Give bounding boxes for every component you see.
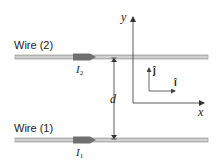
current-1-subscript: 1 [80,152,84,160]
wire-2 [15,55,208,59]
unit-vector-i-label: î [174,78,177,88]
x-axis-label: x [198,106,203,118]
diagram-canvas [0,0,218,165]
wire-2-label: Wire (2) [14,40,53,51]
separation-label: d [110,93,116,105]
current-1-label: I1 [76,147,83,160]
y-axis-label: y [121,11,126,23]
current-2-label: I2 [76,64,83,77]
unit-vector-j-label: ĵ [153,66,156,76]
wire-1-label: Wire (1) [14,123,53,134]
current-arrow-2 [73,54,96,61]
current-arrow-1 [73,137,96,144]
current-2-subscript: 2 [80,69,84,77]
